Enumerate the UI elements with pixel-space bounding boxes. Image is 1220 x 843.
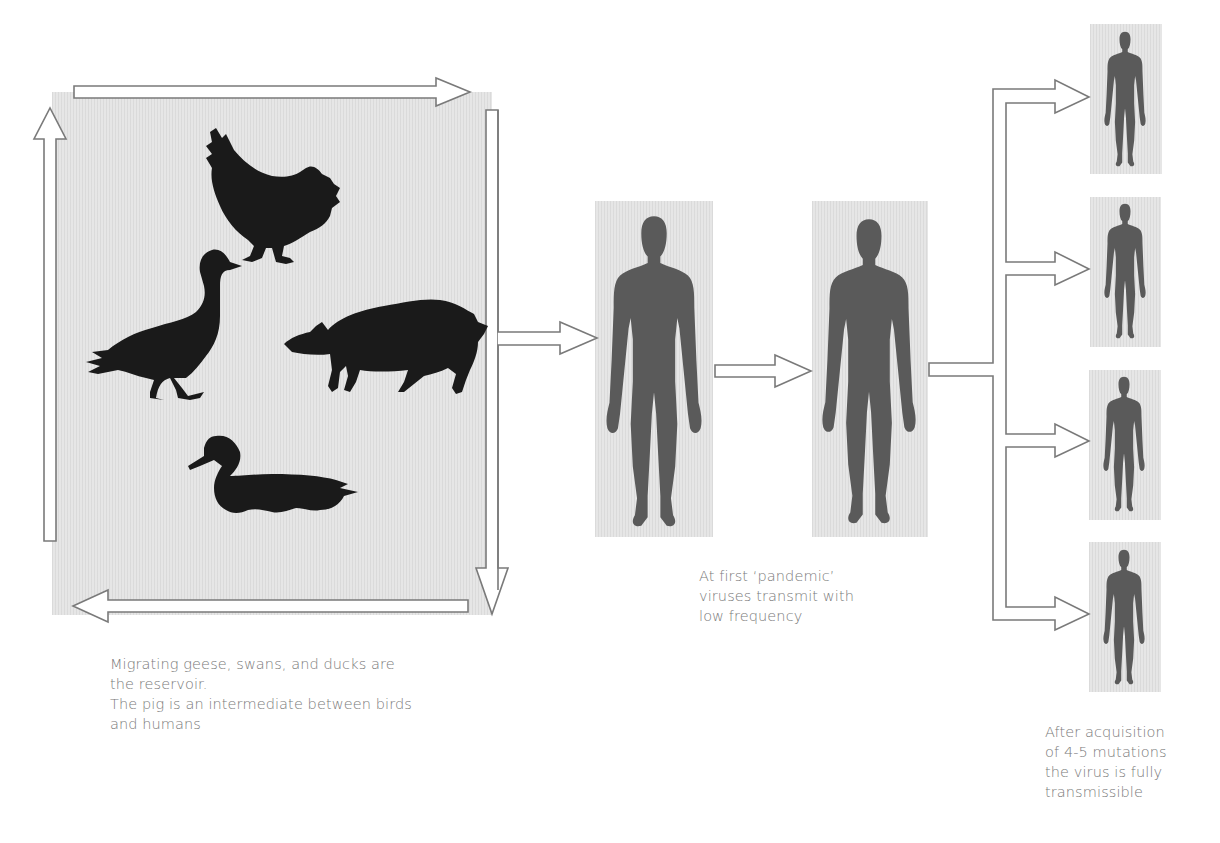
human-icon-6 bbox=[1103, 550, 1144, 685]
arrow-left-up bbox=[34, 108, 66, 541]
human-icon-2 bbox=[822, 219, 915, 523]
arrow-reservoir-to-human bbox=[498, 110, 597, 590]
reservoir-caption: Migrating geese, swans, and ducks are th… bbox=[110, 654, 412, 734]
arrow-top-right bbox=[74, 78, 470, 106]
late-stage-caption-line1: After acquisition bbox=[1045, 722, 1167, 742]
arrow-human1-to-human2 bbox=[715, 355, 811, 387]
early-stage-caption-line1: At first ‘pandemic’ bbox=[699, 566, 854, 586]
goose-icon bbox=[86, 250, 242, 400]
early-stage-caption-line3: low frequency bbox=[699, 606, 854, 626]
late-stage-caption: After acquisition of 4-5 mutations the v… bbox=[1045, 722, 1167, 802]
pig-icon bbox=[284, 299, 488, 394]
human-icon-3 bbox=[1104, 32, 1145, 167]
reservoir-caption-line2: the reservoir. bbox=[110, 674, 412, 694]
late-stage-caption-line4: transmissible bbox=[1045, 782, 1167, 802]
reservoir-caption-line3: The pig is an intermediate between birds bbox=[110, 694, 412, 714]
early-stage-caption: At first ‘pandemic’ viruses transmit wit… bbox=[699, 566, 854, 626]
human-icon-1 bbox=[606, 216, 701, 526]
chicken-icon bbox=[206, 128, 340, 264]
arrow-bottom-left bbox=[73, 590, 468, 622]
late-stage-caption-line2: of 4-5 mutations bbox=[1045, 742, 1167, 762]
arrow-branch-tree bbox=[929, 80, 1089, 630]
late-stage-caption-line3: the virus is fully bbox=[1045, 762, 1167, 782]
reservoir-caption-line4: and humans bbox=[110, 714, 412, 734]
duck-icon bbox=[188, 436, 358, 513]
human-icon-4 bbox=[1104, 204, 1145, 339]
early-stage-caption-line2: viruses transmit with bbox=[699, 586, 854, 606]
human-icon-5 bbox=[1103, 377, 1144, 512]
reservoir-caption-line1: Migrating geese, swans, and ducks are bbox=[110, 654, 412, 674]
arrow-right-down bbox=[476, 110, 508, 614]
